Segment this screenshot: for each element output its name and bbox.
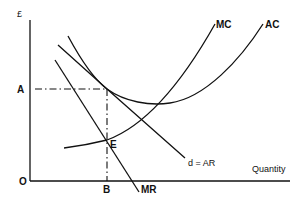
mc-curve (64, 24, 215, 148)
quantity-label-b: B (103, 184, 110, 195)
ac-label: AC (265, 19, 279, 30)
price-label-a: A (17, 84, 24, 95)
origin-label: O (19, 176, 27, 187)
mc-label: MC (216, 19, 232, 30)
mr-label: MR (141, 184, 157, 195)
ar-demand-line (58, 45, 185, 158)
ar-label: d = AR (188, 158, 216, 168)
equilibrium-label-e: E (110, 139, 117, 150)
x-axis-label: Quantity (252, 164, 286, 174)
ac-curve (68, 24, 263, 104)
y-axis-label: £ (17, 9, 22, 19)
cost-revenue-diagram: £ A O B E MC AC d = AR MR Quantity (0, 0, 303, 199)
